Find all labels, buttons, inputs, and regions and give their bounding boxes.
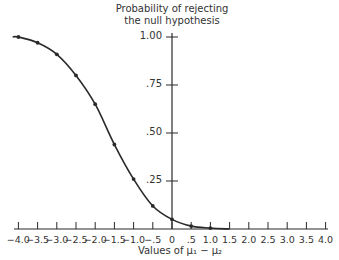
data-point — [209, 226, 213, 230]
data-point — [151, 204, 155, 208]
power-curve-chart — [0, 0, 339, 260]
x-tick-label: 4.0 — [314, 234, 338, 245]
data-point — [113, 143, 117, 147]
data-point — [170, 218, 174, 222]
x-axis-label: Values of μ₁ − μ₂ — [125, 245, 235, 256]
y-tick-label: .50 — [122, 126, 162, 137]
y-axis-label: Probability of rejecting the null hypoth… — [110, 3, 234, 27]
data-point — [55, 52, 59, 56]
y-axis-label-line-1: Probability of rejecting — [110, 3, 234, 15]
y-tick-label: .25 — [122, 174, 162, 185]
data-point — [189, 224, 193, 228]
data-point — [93, 102, 97, 106]
data-point — [17, 35, 21, 39]
y-axis-label-line-2: the null hypothesis — [110, 15, 234, 27]
data-point — [36, 41, 40, 45]
x-ticks — [18, 222, 325, 229]
data-point — [74, 74, 78, 78]
data-point-markers — [17, 35, 213, 230]
y-tick-label: 1.00 — [122, 30, 162, 41]
y-tick-label: .75 — [122, 78, 162, 89]
